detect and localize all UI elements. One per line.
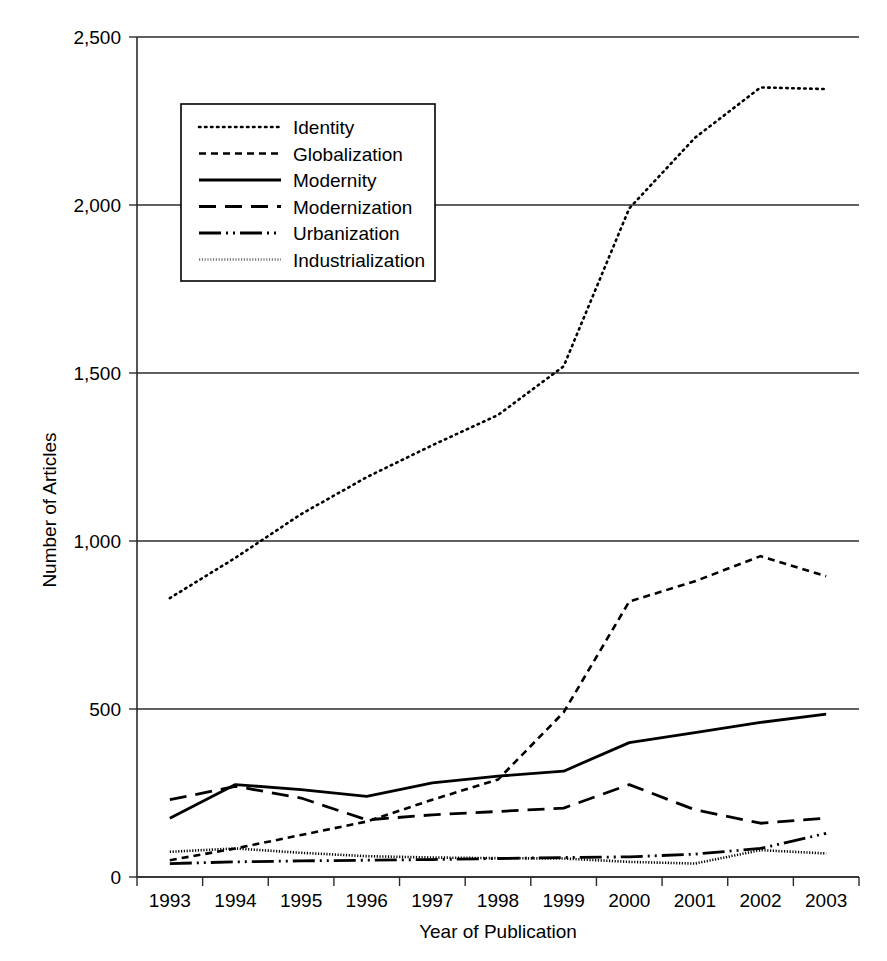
series-line-modernity: [170, 714, 826, 818]
x-tick-label: 2002: [739, 890, 781, 911]
y-tick-marks-group: [129, 37, 137, 877]
y-tick-label: 500: [89, 699, 121, 720]
x-tick-label: 2003: [805, 890, 847, 911]
legend-label-urbanization: Urbanization: [293, 223, 400, 244]
x-tick-marks-group: [137, 877, 859, 886]
legend-label-industrialization: Industrialization: [293, 250, 425, 271]
series-line-globalization: [170, 556, 826, 860]
y-tick-label: 2,000: [73, 195, 121, 216]
x-tick-labels-group: 1993199419951996199719981999200020012002…: [149, 890, 848, 911]
x-tick-label: 1995: [280, 890, 322, 911]
x-tick-label: 1994: [214, 890, 257, 911]
y-tick-labels-group: 05001,0001,5002,0002,500: [73, 27, 121, 888]
x-axis-title: Year of Publication: [419, 921, 577, 942]
legend-label-globalization: Globalization: [293, 144, 403, 165]
x-tick-label: 1998: [477, 890, 519, 911]
x-tick-label: 1999: [542, 890, 584, 911]
legend-label-modernization: Modernization: [293, 197, 412, 218]
chart-legend: IdentityGlobalizationModernityModernizat…: [181, 104, 435, 281]
y-tick-label: 1,500: [73, 363, 121, 384]
x-tick-label: 1996: [346, 890, 388, 911]
y-tick-label: 0: [110, 867, 121, 888]
x-tick-label: 2000: [608, 890, 650, 911]
y-tick-label: 2,500: [73, 27, 121, 48]
y-axis-title: Number of Articles: [39, 432, 60, 587]
chart-canvas: 05001,0001,5002,0002,500 199319941995199…: [0, 0, 887, 961]
line-chart-figure: 05001,0001,5002,0002,500 199319941995199…: [0, 0, 887, 961]
legend-label-identity: Identity: [293, 117, 355, 138]
y-tick-label: 1,000: [73, 531, 121, 552]
x-tick-label: 1997: [411, 890, 453, 911]
x-tick-label: 2001: [674, 890, 716, 911]
x-tick-label: 1993: [149, 890, 191, 911]
legend-label-modernity: Modernity: [293, 170, 377, 191]
series-line-modernization: [170, 785, 826, 824]
